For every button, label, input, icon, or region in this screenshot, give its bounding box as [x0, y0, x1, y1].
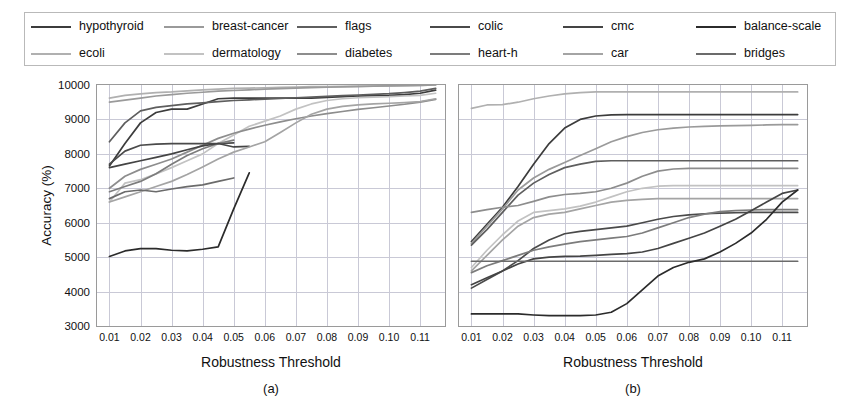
- legend-item-flags[interactable]: flags: [297, 20, 430, 33]
- y-tick-label: 4000: [64, 286, 90, 298]
- legend-label-dermatology: dermatology: [212, 47, 281, 60]
- legend-item-diabetes[interactable]: diabetes: [297, 47, 430, 60]
- x-tick-label: 0.11: [410, 331, 430, 343]
- x-tick-label: 0.03: [161, 331, 181, 343]
- series-line-hypothyroid: [109, 90, 435, 166]
- y-tick-label: 3000: [64, 320, 90, 332]
- legend-swatch-flags: [297, 26, 337, 28]
- x-tick-label: 0.06: [617, 331, 637, 343]
- x-tick-label: 0.08: [317, 331, 337, 343]
- y-tick-label: 8000: [64, 148, 90, 160]
- legend-item-hypothyroid[interactable]: hypothyroid: [31, 20, 164, 33]
- x-tick-label: 0.06: [255, 331, 275, 343]
- y-tick-label: 5000: [64, 251, 90, 263]
- legend-item-balance-scale[interactable]: balance-scale: [696, 20, 829, 33]
- legend-label-flags: flags: [345, 20, 371, 33]
- x-tick-label: 0.01: [461, 331, 481, 343]
- panel-a: 3000400050006000700080009000100000.010.0…: [16, 84, 448, 327]
- x-tick-label: 0.05: [223, 331, 243, 343]
- legend-item-bridges[interactable]: bridges: [696, 47, 829, 60]
- legend-swatch-hypothyroid: [31, 26, 71, 28]
- legend-swatch-breast-cancer: [164, 26, 204, 28]
- x-tick-label: 0.02: [492, 331, 512, 343]
- figure-root: hypothyroidbreast-cancerflagscoliccmcbal…: [0, 0, 860, 409]
- legend-swatch-cmc: [563, 26, 603, 28]
- subfigure-caption-b: (b): [458, 381, 808, 396]
- legend-label-balance-scale: balance-scale: [744, 20, 821, 33]
- series-line-heart-h: [109, 140, 233, 192]
- x-tick-label: 0.03: [523, 331, 543, 343]
- x-tick-label: 0.08: [679, 331, 699, 343]
- series-line-hypothyroid: [471, 115, 797, 242]
- legend-swatch-heart-h: [430, 53, 470, 55]
- x-tick-label: 0.11: [772, 331, 792, 343]
- x-tick-label: 0.04: [192, 331, 212, 343]
- series-line-car: [109, 99, 435, 202]
- series-line-flags: [471, 161, 797, 245]
- x-tick-label: 0.10: [741, 331, 761, 343]
- legend-label-colic: colic: [478, 20, 503, 33]
- legend-item-ecoli[interactable]: ecoli: [31, 47, 164, 60]
- x-tick-label: 0.09: [710, 331, 730, 343]
- legend-swatch-car: [563, 53, 603, 55]
- legend-label-ecoli: ecoli: [79, 47, 105, 60]
- panel-b: 0.010.020.030.040.050.060.070.080.090.10…: [440, 84, 840, 327]
- x-tick-label: 0.10: [379, 331, 399, 343]
- legend-label-bridges: bridges: [744, 47, 785, 60]
- curves-layer: [97, 85, 445, 326]
- legend-label-heart-h: heart-h: [478, 47, 518, 60]
- x-tick-label: 0.01: [99, 331, 119, 343]
- y-tick-label: 7000: [64, 182, 90, 194]
- legend-label-diabetes: diabetes: [345, 47, 392, 60]
- legend-item-cmc[interactable]: cmc: [563, 20, 696, 33]
- curves-layer: [459, 85, 807, 326]
- x-tick-label: 0.02: [130, 331, 150, 343]
- series-line-ecoli: [471, 92, 797, 109]
- legend-item-dermatology[interactable]: dermatology: [164, 47, 297, 60]
- legend-label-breast-cancer: breast-cancer: [212, 20, 288, 33]
- legend-label-hypothyroid: hypothyroid: [79, 20, 144, 33]
- legend-swatch-colic: [430, 26, 470, 28]
- legend-label-cmc: cmc: [611, 20, 634, 33]
- legend-item-car[interactable]: car: [563, 47, 696, 60]
- legend-swatch-bridges: [696, 53, 736, 55]
- series-line-colic: [471, 212, 797, 288]
- x-tick-label: 0.04: [554, 331, 574, 343]
- legend-swatch-diabetes: [297, 53, 337, 55]
- legend-item-colic[interactable]: colic: [430, 20, 563, 33]
- x-tick-label: 0.05: [585, 331, 605, 343]
- y-tick-label: 6000: [64, 217, 90, 229]
- plot-area-b: 0.010.020.030.040.050.060.070.080.090.10…: [458, 84, 808, 327]
- legend-swatch-balance-scale: [696, 26, 736, 28]
- x-tick-label: 0.07: [286, 331, 306, 343]
- y-tick-label: 9000: [64, 113, 90, 125]
- legend-label-car: car: [611, 47, 628, 60]
- legend-item-breast-cancer[interactable]: breast-cancer: [164, 20, 297, 33]
- x-axis-label-b: Robustness Threshold: [458, 354, 808, 370]
- legend-swatch-dermatology: [164, 53, 204, 55]
- x-axis-label-a: Robustness Threshold: [96, 354, 446, 370]
- chart-legend: hypothyroidbreast-cancerflagscoliccmcbal…: [24, 12, 836, 66]
- x-tick-label: 0.09: [348, 331, 368, 343]
- x-tick-label: 0.07: [648, 331, 668, 343]
- y-tick-label: 10000: [58, 79, 90, 91]
- subfigure-caption-a: (a): [96, 381, 446, 396]
- legend-swatch-ecoli: [31, 53, 71, 55]
- legend-item-heart-h[interactable]: heart-h: [430, 47, 563, 60]
- plot-area-a: 3000400050006000700080009000100000.010.0…: [96, 84, 446, 327]
